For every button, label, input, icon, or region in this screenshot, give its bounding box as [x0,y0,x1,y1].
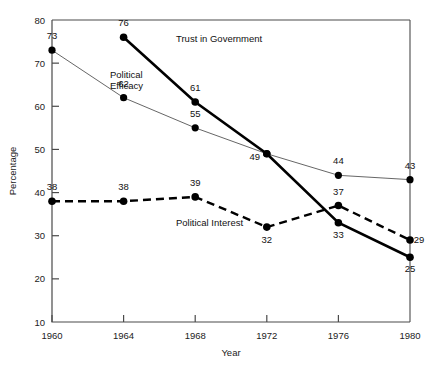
x-axis-tick-label: 1968 [185,330,206,341]
data-point-label: 49 [250,151,261,162]
data-point-marker [335,202,343,210]
data-point-marker [406,236,414,244]
data-point-marker [120,94,127,101]
series-line [52,50,410,179]
x-axis-tick-label: 1972 [256,330,277,341]
y-axis-tick-label: 10 [34,317,45,328]
y-axis-tick-label: 30 [34,230,45,241]
data-point-label: 25 [405,263,416,274]
y-axis-tick-label: 80 [34,15,45,26]
series-political-efficacy [48,47,413,184]
data-point-marker [48,47,55,54]
data-point-marker [263,223,271,231]
x-axis-tick-label: 1964 [113,330,134,341]
data-point-marker [191,98,199,106]
data-point-label: 39 [190,177,201,188]
data-point-label: 37 [333,186,344,197]
data-point-label: 73 [47,30,58,41]
data-point-label: 32 [262,234,273,245]
chart-axes [52,20,410,322]
line-chart: 1020304050607080196019641968197219761980… [0,0,438,366]
data-point-marker [335,172,342,179]
x-axis-tick-label: 1976 [328,330,349,341]
data-point-label: 38 [47,181,58,192]
series-label-political-efficacy: Political [110,69,143,80]
data-point-marker [263,150,271,158]
y-axis-tick-label: 60 [34,101,45,112]
series-label-trust-in-government: Trust in Government [176,33,263,44]
data-point-label: 55 [190,108,201,119]
data-point-label: 61 [190,82,201,93]
series-label-political-efficacy-line2: Efficacy [110,80,143,91]
y-axis-tick-label: 20 [34,273,45,284]
data-point-label: 76 [118,17,129,28]
series-label-political-interest: Political Interest [176,217,243,228]
data-point-marker [192,124,199,131]
data-point-marker [191,193,199,201]
data-point-label: 44 [333,155,344,166]
y-axis-tick-label: 40 [34,187,45,198]
x-axis-tick-label: 1980 [399,330,420,341]
data-point-label: 43 [405,160,416,171]
data-point-label: 33 [333,229,344,240]
x-axis-tick-label: 1960 [41,330,62,341]
data-point-label: 29 [414,234,425,245]
data-point-marker [120,197,128,205]
y-axis-tick-label: 70 [34,58,45,69]
data-point-marker [406,176,413,183]
data-point-marker [48,197,56,205]
data-point-marker [406,253,414,261]
data-point-label: 38 [118,181,129,192]
chart-container: 1020304050607080196019641968197219761980… [0,0,438,366]
y-axis-tick-label: 50 [34,144,45,155]
x-axis-title: Year [221,347,240,358]
data-point-marker [335,219,343,227]
y-axis-title: Percentage [7,147,18,196]
data-point-marker [120,33,128,41]
